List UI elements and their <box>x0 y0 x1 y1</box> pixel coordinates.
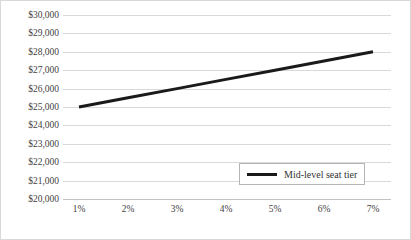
data-series-line <box>79 52 373 107</box>
legend-label: Mid-level seat tier <box>284 169 357 180</box>
chart-legend: Mid-level seat tier <box>239 163 365 185</box>
series-line-mid-level-seat-tier <box>1 1 411 240</box>
legend-swatch-icon <box>247 173 277 176</box>
chart-figure: $30,000$29,000$28,000$27,000$26,000$25,0… <box>0 0 411 240</box>
